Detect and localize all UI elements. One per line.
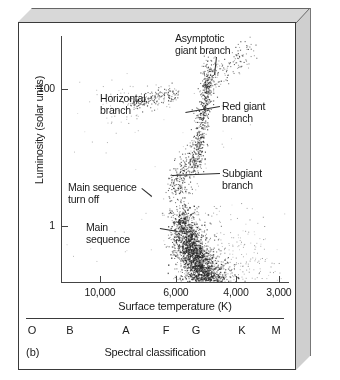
y-axis-line bbox=[61, 36, 62, 283]
spectral-class-F: F bbox=[163, 324, 170, 336]
x-tick bbox=[176, 276, 177, 283]
x-tick bbox=[100, 276, 101, 283]
figure-panel: 1001 10,0006,0004,0003,000 Luminosity (s… bbox=[0, 0, 340, 380]
spectral-class-M: M bbox=[271, 324, 280, 336]
x-tick-label: 6,000 bbox=[163, 286, 188, 298]
x-tick bbox=[279, 276, 280, 283]
frame-top-bevel bbox=[18, 8, 310, 22]
spectral-class-A: A bbox=[122, 324, 129, 336]
frame-corner-icon bbox=[296, 8, 311, 23]
frame-side-bevel bbox=[296, 8, 310, 370]
spectral-class-B: B bbox=[66, 324, 73, 336]
x-tick bbox=[236, 276, 237, 283]
annotation-horizontal: Horizontal branch bbox=[100, 93, 145, 116]
spectral-axis-line bbox=[26, 318, 284, 319]
y-axis-label: Luminosity (solar units) bbox=[33, 45, 45, 215]
x-tick-label: 10,000 bbox=[85, 286, 116, 298]
spectral-class-O: O bbox=[28, 324, 37, 336]
star-scatter-canvas bbox=[24, 28, 290, 288]
hr-diagram-plot: 1001 10,0006,0004,0003,000 Luminosity (s… bbox=[24, 28, 290, 288]
y-tick bbox=[61, 226, 68, 227]
x-tick-label: 3,000 bbox=[266, 286, 291, 298]
spectral-classification-axis: OBAFGKM Spectral classification bbox=[26, 318, 288, 368]
y-tick bbox=[61, 89, 68, 90]
frame-right-edge bbox=[310, 8, 311, 356]
annotation-main-sequence: Main sequence turn off bbox=[68, 182, 137, 205]
annotation-red-giant: Red giant branch bbox=[222, 101, 265, 124]
annotation-asymptotic: Asymptotic giant branch bbox=[175, 33, 230, 56]
spectral-class-K: K bbox=[238, 324, 245, 336]
x-tick-label: 4,000 bbox=[223, 286, 248, 298]
spectral-class-G: G bbox=[192, 324, 201, 336]
spectral-axis-label: Spectral classification bbox=[26, 346, 284, 358]
y-tick-label: 1 bbox=[29, 219, 55, 231]
annotation-main: Main sequence bbox=[86, 222, 130, 245]
annotation-subgiant: Subgiant branch bbox=[222, 168, 262, 191]
x-axis-label: Surface temperature (K) bbox=[61, 300, 289, 312]
panel-label: (b) bbox=[26, 346, 39, 358]
